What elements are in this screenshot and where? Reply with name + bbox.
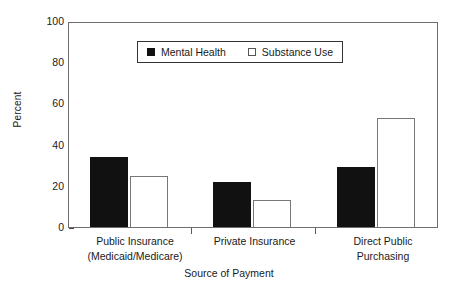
filled-square-icon bbox=[147, 48, 155, 56]
legend-item-substance-use: Substance Use bbox=[248, 46, 333, 58]
chart-legend: Mental Health Substance Use bbox=[137, 41, 343, 63]
y-axis-title: Percent bbox=[12, 80, 23, 140]
open-square-icon bbox=[248, 48, 256, 56]
legend-label: Mental Health bbox=[161, 46, 226, 58]
x-category-line1: Public Insurance bbox=[96, 235, 174, 247]
y-tick-mark bbox=[69, 228, 74, 229]
x-axis-title: Source of Payment bbox=[0, 267, 458, 279]
x-category-line2: Purchasing bbox=[318, 249, 448, 264]
bar-substance-use-3 bbox=[377, 118, 415, 227]
bar-chart-figure: Percent 100 80 60 40 20 0 Mental Health bbox=[0, 0, 458, 293]
bar-mental-health-2 bbox=[213, 182, 251, 227]
y-tick-label: 80 bbox=[34, 56, 64, 68]
bar-substance-use-1 bbox=[130, 176, 168, 228]
y-tick-label: 60 bbox=[34, 97, 64, 109]
y-tick-label: 0 bbox=[34, 221, 64, 233]
legend-item-mental-health: Mental Health bbox=[147, 46, 226, 58]
y-tick-label: 40 bbox=[34, 139, 64, 151]
x-category-line1: Private Insurance bbox=[214, 235, 296, 247]
bar-mental-health-1 bbox=[90, 157, 128, 227]
x-category-line1: Direct Public bbox=[354, 235, 413, 247]
y-tick-label: 100 bbox=[34, 15, 64, 27]
x-category-line2: (Medicaid/Medicare) bbox=[60, 249, 210, 264]
y-tick-label: 20 bbox=[34, 180, 64, 192]
bar-substance-use-2 bbox=[253, 200, 291, 227]
x-category-label-private-insurance: Private Insurance bbox=[187, 234, 322, 249]
bar-mental-health-3 bbox=[337, 167, 375, 227]
legend-label: Substance Use bbox=[262, 46, 333, 58]
x-category-label-direct-public-purchasing: Direct Public Purchasing bbox=[318, 234, 448, 264]
